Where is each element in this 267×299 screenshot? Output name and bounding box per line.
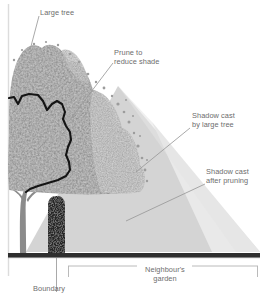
diagram-svg: [0, 0, 267, 299]
diagram-canvas: Large tree Prune to reduce shade Shadow …: [0, 0, 267, 299]
boundary-hedge: [48, 196, 65, 253]
ground-line: [8, 253, 260, 258]
